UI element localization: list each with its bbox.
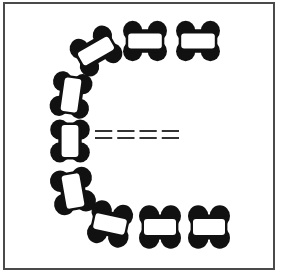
block-top-1 [66,22,126,80]
block-top-3 [176,21,220,62]
block-left-3 [48,165,97,217]
block-left-1 [48,70,93,120]
block-left-2 [50,120,90,163]
block-top-2 [123,21,167,62]
dashed-marker [95,131,184,138]
block-arc-diagram [0,0,282,279]
block-bottom-3 [188,205,230,248]
blocks-layer [48,21,230,250]
block-bottom-2 [139,205,181,248]
